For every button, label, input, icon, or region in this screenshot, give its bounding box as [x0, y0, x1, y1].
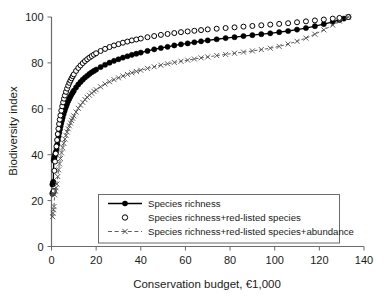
data-point [312, 18, 317, 23]
data-point [241, 24, 246, 29]
data-point [259, 32, 264, 37]
data-point [138, 50, 143, 55]
data-point [53, 151, 58, 156]
data-point [205, 27, 210, 32]
data-point [205, 38, 210, 43]
data-point [321, 17, 326, 22]
data-point [303, 25, 308, 30]
x-tick-label: 20 [90, 254, 102, 266]
data-point [330, 16, 335, 21]
data-point [192, 28, 197, 33]
data-point [178, 30, 183, 35]
data-point [192, 40, 197, 45]
data-point [268, 22, 273, 27]
data-point [55, 138, 60, 143]
data-point [223, 26, 228, 31]
data-point [145, 48, 150, 53]
data-point [158, 45, 163, 50]
data-point [53, 159, 58, 164]
data-point [198, 39, 203, 44]
data-point [250, 33, 255, 38]
data-point [158, 32, 163, 37]
data-point [250, 23, 255, 28]
data-point [268, 31, 273, 36]
x-axis-title: Conservation budget, €1,000 [133, 278, 281, 290]
x-tick-label: 100 [266, 254, 284, 266]
y-tick-label: 0 [37, 241, 43, 253]
data-point [172, 31, 177, 36]
data-point [294, 27, 299, 32]
y-tick-label: 40 [31, 149, 43, 161]
x-tick-label: 60 [179, 254, 191, 266]
data-point [214, 37, 219, 42]
y-tick-label: 80 [31, 57, 43, 69]
data-point [185, 29, 190, 34]
x-tick-label: 120 [310, 254, 328, 266]
data-point [165, 31, 170, 36]
legend-label-0: Species richness [148, 198, 221, 209]
data-point [232, 25, 237, 30]
data-point [52, 168, 57, 173]
data-point [277, 30, 282, 35]
legend-marker-0 [122, 201, 128, 207]
y-axis-title: Biodiversity index [7, 86, 19, 176]
y-tick-label: 20 [31, 195, 43, 207]
data-point [56, 126, 61, 131]
y-tick-label: 60 [31, 103, 43, 115]
data-point [214, 26, 219, 31]
chart-figure: 020406080100 020406080100120140 Biodiver… [0, 0, 385, 307]
data-point [178, 42, 183, 47]
x-tick-label: 0 [48, 254, 54, 266]
biodiversity-budget-chart: 020406080100 020406080100120140 Biodiver… [0, 0, 385, 307]
data-point [54, 144, 59, 149]
data-point [152, 34, 157, 39]
data-point [286, 28, 291, 33]
data-point [232, 35, 237, 40]
legend-marker-1 [122, 215, 127, 220]
data-point [241, 33, 246, 38]
x-tick-label: 80 [224, 254, 236, 266]
y-tick-label: 100 [25, 11, 43, 23]
data-point [286, 21, 291, 26]
data-point [185, 41, 190, 46]
x-tick-label: 40 [135, 254, 147, 266]
data-point [138, 36, 143, 41]
data-point [277, 21, 282, 26]
data-point [145, 35, 150, 40]
data-point [223, 36, 228, 41]
data-point [259, 23, 264, 28]
x-tick-label: 140 [355, 254, 373, 266]
data-point [55, 132, 60, 137]
legend-label-1: Species richness+red-listed species [148, 212, 301, 223]
data-point [152, 47, 157, 52]
chart-legend: Species richnessSpecies richness+red-lis… [99, 195, 354, 244]
data-point [295, 20, 300, 25]
data-point [199, 28, 204, 33]
data-point [303, 19, 308, 24]
data-point [58, 113, 63, 118]
data-point [172, 43, 177, 48]
legend-label-2: Species richness+red-listed species+abun… [148, 226, 354, 237]
data-point [165, 44, 170, 49]
data-point [312, 24, 317, 29]
